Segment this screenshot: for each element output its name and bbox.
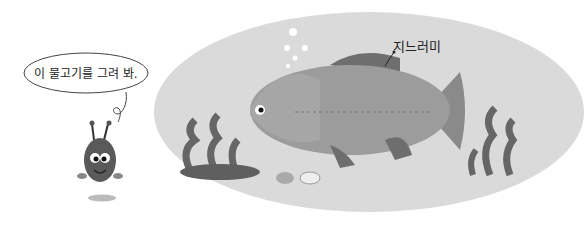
bug-character-icon xyxy=(70,118,130,208)
fin-label: 지느러미 xyxy=(393,36,441,55)
fish-illustration xyxy=(150,0,588,233)
speech-bubble-text: 이 물고기를 그려 봐. xyxy=(22,52,150,92)
